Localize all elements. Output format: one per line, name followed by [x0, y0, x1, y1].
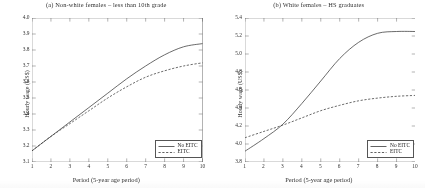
x-tick-label: 8	[376, 164, 379, 169]
y-tick-label: 3.3	[23, 127, 30, 132]
panel-a-legend: No EITC EITC	[155, 140, 202, 158]
x-tick-label: 2	[50, 164, 53, 169]
panel-b-plot-area: 5.45.25.04.84.64.44.24.03.8 12345678910 …	[245, 18, 416, 162]
panel-b: (b) White females – HS graduates Hourly …	[213, 0, 425, 188]
x-tick-label: 4	[300, 164, 303, 169]
panel-a-legend-item-eitc: EITC	[158, 149, 198, 155]
y-tick-label: 5.0	[235, 51, 242, 56]
x-tick-label: 3	[69, 164, 72, 169]
x-tick-label: 1	[243, 164, 246, 169]
x-tick-label: 5	[319, 164, 322, 169]
x-tick-label: 10	[412, 164, 417, 169]
y-tick-label: 3.9	[23, 31, 30, 36]
x-tick-label: 4	[87, 164, 90, 169]
x-tick-label: 6	[338, 164, 341, 169]
x-tick-label: 7	[144, 164, 147, 169]
panel-b-title: (b) White females – HS graduates	[213, 1, 425, 8]
y-tick-label: 3.8	[23, 47, 30, 52]
y-tick-label: 4.6	[235, 87, 242, 92]
x-tick-label: 1	[31, 164, 34, 169]
panel-b-x-axis-label: Period (5-year age period)	[213, 176, 425, 183]
dashed-line-icon	[370, 150, 387, 155]
panel-a-legend-label-eitc: EITC	[178, 149, 190, 155]
y-tick-label: 3.7	[23, 63, 30, 68]
x-tick-label: 8	[163, 164, 166, 169]
y-tick-label: 4.2	[235, 123, 242, 128]
y-tick-label: 4.0	[235, 141, 242, 146]
x-tick-label: 3	[281, 164, 284, 169]
y-tick-label: 3.5	[23, 95, 30, 100]
y-tick-label: 5.2	[235, 33, 242, 38]
x-tick-label: 5	[106, 164, 109, 169]
y-tick-label: 4.0	[23, 15, 30, 20]
x-tick-label: 9	[395, 164, 398, 169]
panel-b-legend: No EITC EITC	[367, 140, 414, 158]
panel-b-legend-item-eitc: EITC	[370, 149, 410, 155]
y-tick-label: 3.8	[235, 159, 242, 164]
x-tick-label: 2	[262, 164, 265, 169]
panel-b-legend-label-eitc: EITC	[390, 149, 402, 155]
y-tick-label: 3.1	[23, 159, 30, 164]
y-tick-label: 4.8	[235, 69, 242, 74]
solid-line-icon	[158, 144, 175, 149]
figure-two-panel-line-charts: (a) Non-white females – less than 10th g…	[0, 0, 425, 188]
x-tick-label: 7	[357, 164, 360, 169]
dashed-line-icon	[158, 150, 175, 155]
panel-a-plot-area: 4.03.93.83.73.63.53.43.33.23.1 123456789…	[32, 18, 203, 162]
panel-a-x-axis-label: Period (5-year age period)	[0, 176, 213, 183]
y-tick-label: 3.6	[23, 79, 30, 84]
panel-a: (a) Non-white females – less than 10th g…	[0, 0, 213, 188]
y-tick-label: 3.4	[23, 111, 30, 116]
x-tick-label: 9	[182, 164, 185, 169]
y-tick-label: 5.4	[235, 15, 242, 20]
panel-a-title: (a) Non-white females – less than 10th g…	[0, 1, 213, 8]
y-tick-label: 4.4	[235, 105, 242, 110]
y-tick-label: 3.2	[23, 143, 30, 148]
x-tick-label: 10	[200, 164, 205, 169]
solid-line-icon	[370, 144, 387, 149]
x-tick-label: 6	[125, 164, 128, 169]
